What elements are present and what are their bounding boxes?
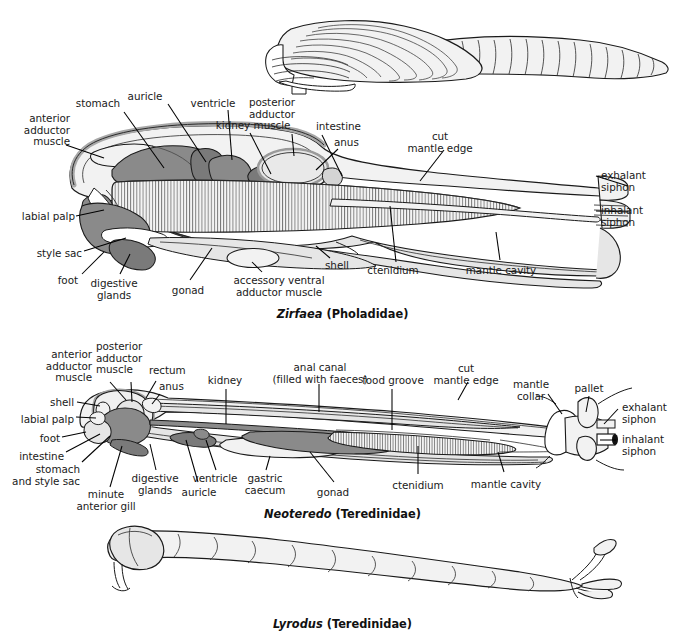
caption-family-zirfaea: (Pholadidae) bbox=[326, 307, 408, 321]
caption-lyrodus: Lyrodus (Teredinidae) bbox=[0, 617, 685, 631]
top-shell-drawing bbox=[266, 21, 668, 94]
label-ctenidium-n: ctenidium bbox=[377, 480, 459, 492]
caption-genus-neoteredo: Neoteredo bbox=[264, 507, 332, 521]
lyrodus-drawing bbox=[108, 526, 622, 599]
label-pallet-n: pallet bbox=[562, 383, 616, 395]
label-exhalant-siphon-z: exhalant siphon bbox=[601, 170, 646, 193]
caption-neoteredo: Neoteredo (Teredinidae) bbox=[0, 507, 685, 521]
label-posterior-adductor-muscle-n: posterior adductor muscle bbox=[96, 341, 142, 376]
label-gonad-z: gonad bbox=[155, 285, 221, 297]
label-exhalant-siphon-n: exhalant siphon bbox=[622, 402, 667, 425]
caption-family-lyrodus: (Teredinidae) bbox=[327, 617, 412, 631]
label-auricle-z: auricle bbox=[108, 91, 182, 103]
label-cut-mantle-edge-n: cut mantle edge bbox=[424, 363, 508, 386]
label-posterior-adductor-muscle-z: posterior adductor muscle bbox=[230, 97, 314, 132]
label-shell-n: shell bbox=[2, 397, 74, 409]
label-shell-z: shell bbox=[325, 260, 349, 272]
label-auricle-n: auricle bbox=[168, 487, 230, 499]
label-gastric-caecum-n: gastric caecum bbox=[231, 473, 299, 496]
label-mantle-cavity-n: mantle cavity bbox=[455, 479, 557, 491]
label-inhalant-siphon-n: inhalant siphon bbox=[622, 434, 664, 457]
caption-genus-zirfaea: Zirfaea bbox=[277, 307, 323, 321]
label-labial-palp-z: labial palp bbox=[0, 211, 75, 223]
label-accessory-ventral-adductor-muscle-z: accessory ventral adductor muscle bbox=[215, 275, 343, 298]
label-digestive-glands-z: digestive glands bbox=[73, 278, 155, 301]
label-rectum-n: rectum bbox=[149, 365, 186, 377]
label-cut-mantle-edge-z: cut mantle edge bbox=[398, 131, 482, 154]
label-mantle-cavity-z: mantle cavity bbox=[450, 265, 552, 277]
caption-zirfaea: Zirfaea (Pholadidae) bbox=[0, 307, 685, 321]
label-anus-n: anus bbox=[159, 381, 184, 393]
label-inhalant-siphon-z: inhalant siphon bbox=[601, 205, 643, 228]
caption-family-neoteredo: (Teredinidae) bbox=[336, 507, 421, 521]
label-intestine-n: intestine bbox=[0, 451, 64, 463]
label-stomach-and-style-sac-n: stomach and style sac bbox=[0, 464, 80, 487]
label-gonad-n: gonad bbox=[302, 487, 364, 499]
caption-genus-lyrodus: Lyrodus bbox=[273, 617, 323, 631]
label-kidney-n: kidney bbox=[190, 375, 260, 387]
label-mantle-collar-n: mantle collar bbox=[500, 379, 562, 402]
label-labial-palp-n: labial palp bbox=[0, 414, 74, 426]
label-anus-z: anus bbox=[334, 137, 359, 149]
label-foot-z: foot bbox=[8, 275, 78, 287]
label-ctenidium-z: ctenidium bbox=[352, 265, 434, 277]
label-style-sac-z: style sac bbox=[0, 248, 82, 260]
label-anterior-adductor-muscle-n: anterior adductor muscle bbox=[2, 349, 92, 384]
label-anterior-adductor-muscle-z: anterior adductor muscle bbox=[0, 113, 70, 148]
label-intestine-z: intestine bbox=[316, 121, 361, 133]
label-foot-n: foot bbox=[0, 433, 60, 445]
